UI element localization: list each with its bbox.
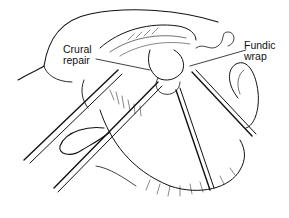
fundic-wrap-label: Fundic wrap (244, 40, 276, 62)
label-line: wrap (244, 51, 276, 62)
surgical-illustration: Crural repair Fundic wrap (0, 0, 289, 218)
crural-repair-label: Crural repair (63, 44, 92, 66)
crural-repair-leader (96, 59, 150, 70)
label-line: repair (63, 55, 92, 66)
illustration-drawing (0, 0, 289, 218)
